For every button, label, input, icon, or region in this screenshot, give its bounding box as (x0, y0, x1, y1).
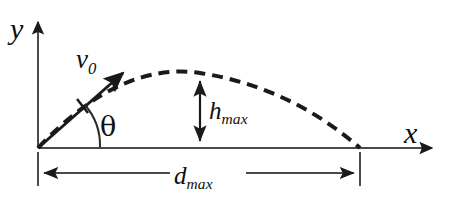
y-axis-label: y (10, 14, 23, 44)
max-height-label: hmax (209, 98, 248, 123)
launch-angle-label: θ (100, 113, 116, 140)
initial-velocity-label: v0 (76, 46, 97, 73)
max-range-label: dmax (174, 163, 213, 188)
range-subscript: max (187, 175, 213, 192)
velocity-subscript: 0 (88, 59, 97, 78)
projectile-motion-diagram: y x v0 θ hmax dmax (0, 0, 451, 209)
height-subscript: max (222, 110, 248, 127)
height-symbol: h (209, 97, 222, 124)
velocity-symbol: v (76, 44, 88, 74)
x-axis-label: x (404, 118, 417, 148)
range-symbol: d (174, 162, 187, 189)
